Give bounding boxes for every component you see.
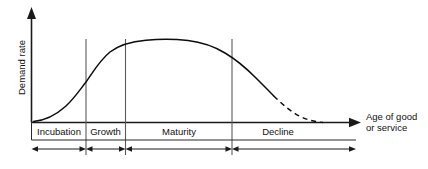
product-life-cycle-chart: Incubation Growth Maturity Decline (0, 0, 428, 169)
demand-curve-dashed-projection (274, 96, 323, 122)
stage-dividers-group (86, 39, 232, 155)
chart-canvas: Incubation Growth Maturity Decline (0, 0, 428, 169)
span-arrowhead-maturity-left (126, 146, 133, 151)
demand-curve-solid (34, 39, 275, 121)
span-arrowhead-decline-left (232, 146, 239, 151)
span-arrowhead-incubation-right (80, 146, 87, 151)
stage-label-decline: Decline (262, 126, 294, 137)
stage-span-arrows-group (32, 146, 357, 151)
span-arrowhead-growth-right (119, 146, 126, 151)
span-arrowhead-incubation-left (32, 146, 39, 151)
span-arrowhead-maturity-right (226, 146, 233, 151)
y-axis-title: Demand rate (16, 40, 27, 95)
stage-label-incubation: Incubation (37, 126, 81, 137)
axes-group (27, 7, 361, 127)
stage-label-growth: Growth (90, 126, 121, 137)
span-arrowhead-growth-left (86, 146, 93, 151)
x-axis-title-line2: or service (366, 122, 407, 133)
axis-titles-group: Demand rate Age of good or service (16, 40, 417, 133)
x-axis-arrowhead-icon (349, 118, 361, 127)
y-axis-arrowhead-icon (27, 7, 36, 19)
stage-label-maturity: Maturity (162, 126, 196, 137)
span-arrowhead-decline-right (349, 146, 356, 151)
stage-labels-group: Incubation Growth Maturity Decline (37, 126, 294, 137)
x-axis-title-line1: Age of good (366, 111, 417, 122)
demand-curve-group (34, 39, 324, 122)
